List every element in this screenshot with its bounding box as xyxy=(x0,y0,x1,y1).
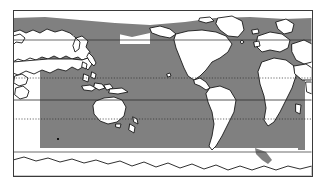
land-hawaii xyxy=(167,73,171,77)
land-azores-islet xyxy=(240,40,243,43)
land-iceland xyxy=(252,29,259,34)
land-british-isles xyxy=(254,41,260,47)
map-body xyxy=(13,10,312,176)
land-india-east-edge xyxy=(306,82,312,94)
land-madagascar xyxy=(296,104,301,114)
map-canvas xyxy=(0,0,324,190)
world-distribution-map-figure xyxy=(0,0,324,190)
land-tasmania xyxy=(116,124,121,128)
point-south-pacific-marker xyxy=(57,138,59,140)
